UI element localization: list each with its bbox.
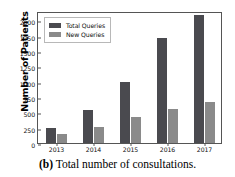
legend-label: New Queries bbox=[66, 31, 104, 38]
bar-total-queries-2014 bbox=[83, 110, 93, 143]
caption-tag: (b) bbox=[39, 158, 53, 170]
y-tick-mark bbox=[38, 114, 41, 115]
bar-total-queries-2013 bbox=[46, 128, 56, 143]
y-tick-mark bbox=[38, 145, 41, 146]
bar-new-queries-2013 bbox=[57, 134, 67, 143]
x-tick-mark bbox=[204, 143, 205, 146]
legend-label: Total Queries bbox=[66, 22, 105, 29]
y-tick-mark bbox=[38, 98, 41, 99]
x-tick-mark bbox=[130, 143, 131, 146]
bar-new-queries-2014 bbox=[94, 127, 104, 143]
bar-new-queries-2017 bbox=[205, 102, 215, 143]
y-tick-label: 2000 bbox=[20, 19, 35, 26]
y-tick-mark bbox=[38, 22, 41, 23]
y-tick-label: 750 bbox=[23, 95, 35, 102]
legend-swatch-icon bbox=[49, 23, 61, 28]
y-tick-mark bbox=[38, 37, 41, 38]
x-tick-mark bbox=[56, 143, 57, 146]
y-tick-mark bbox=[38, 83, 41, 84]
caption-text: Total number of consultations. bbox=[56, 158, 196, 170]
bar-total-queries-2015 bbox=[120, 82, 130, 143]
y-tick-mark bbox=[38, 52, 41, 53]
x-tick-label: 2016 bbox=[160, 146, 175, 153]
y-tick-label: 250 bbox=[23, 126, 35, 133]
y-tick-label: 1750 bbox=[20, 34, 35, 41]
x-tick-label: 2017 bbox=[197, 146, 212, 153]
legend-swatch-icon bbox=[49, 32, 61, 37]
x-tick-label: 2014 bbox=[86, 146, 101, 153]
legend-item-new-queries: New Queries bbox=[49, 30, 105, 39]
y-tick-mark bbox=[38, 68, 41, 69]
y-tick-label: 1500 bbox=[20, 49, 35, 56]
x-tick-label: 2015 bbox=[123, 146, 138, 153]
y-tick-mark bbox=[38, 129, 41, 130]
y-tick-label: 1000 bbox=[20, 80, 35, 87]
x-tick-mark bbox=[93, 143, 94, 146]
y-tick-label: 1250 bbox=[20, 65, 35, 72]
y-tick-label: 500 bbox=[23, 111, 35, 118]
x-tick-mark bbox=[167, 143, 168, 146]
y-tick-label: 0 bbox=[31, 142, 35, 149]
bar-new-queries-2015 bbox=[131, 117, 141, 143]
chart-legend: Total QueriesNew Queries bbox=[44, 17, 111, 43]
plot-area: 025050075010001250150017502000 201320142… bbox=[37, 12, 222, 144]
figure-panel: Number of Patients 025050075010001250150… bbox=[0, 0, 235, 177]
figure-caption: (b) Total number of consultations. bbox=[0, 158, 235, 170]
x-tick-label: 2013 bbox=[49, 146, 64, 153]
bar-new-queries-2016 bbox=[168, 109, 178, 143]
bar-total-queries-2017 bbox=[194, 15, 204, 143]
legend-item-total-queries: Total Queries bbox=[49, 21, 105, 30]
bar-total-queries-2016 bbox=[157, 38, 167, 143]
